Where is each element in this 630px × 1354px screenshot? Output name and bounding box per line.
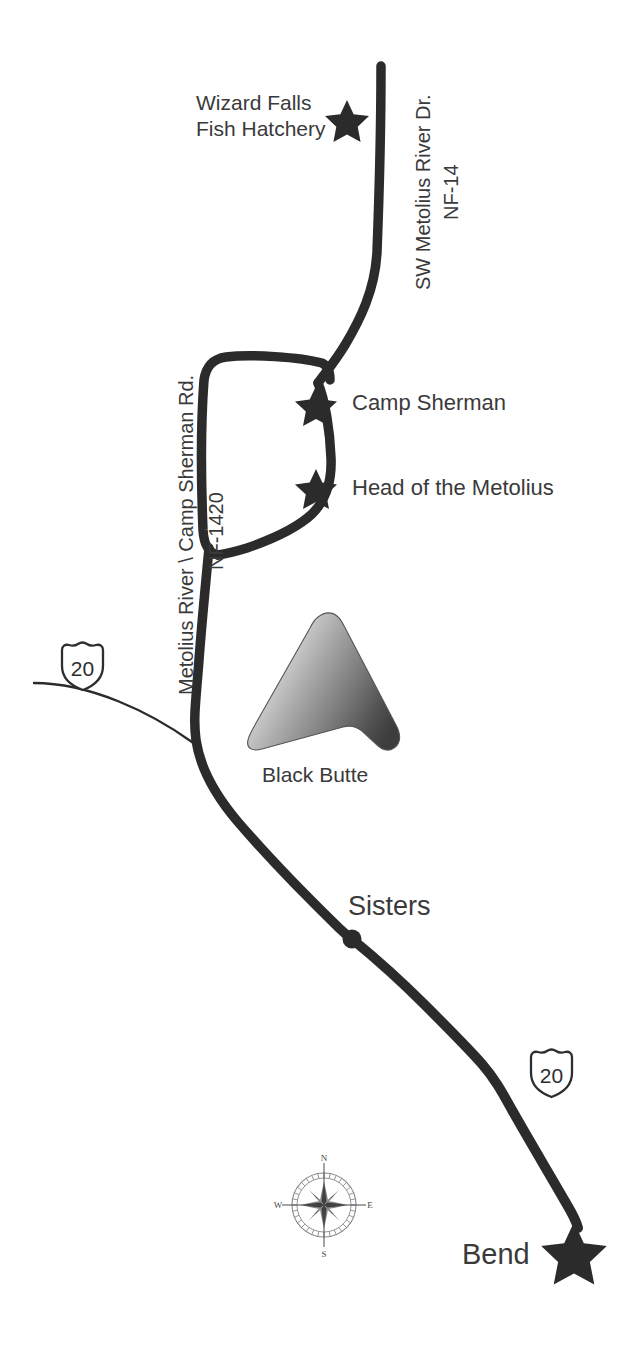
us20-shield-upper-number: 20 (71, 657, 94, 680)
label-sisters: Sisters (348, 890, 431, 923)
label-black-butte: Black Butte (262, 762, 368, 788)
label-wizard-falls-line2: Fish Hatchery (196, 116, 326, 142)
label-road-nf1420-name: Metolius River \ Camp Sherman Rd. (175, 375, 198, 695)
label-bend: Bend (462, 1237, 530, 1272)
us20-west-secondary-road (34, 683, 192, 742)
compass-label-west: W (274, 1200, 283, 1210)
marker-star-wizard-falls-fish-hatchery (325, 100, 369, 142)
label-wizard-falls-line1: Wizard Falls (196, 90, 326, 116)
label-camp-sherman: Camp Sherman (352, 390, 506, 417)
compass-label-east: E (367, 1200, 373, 1210)
map-canvas: 20 20 (0, 0, 630, 1354)
us20-shield-lower-number: 20 (540, 1064, 563, 1087)
marker-dot-sisters (343, 930, 362, 949)
compass-label-south: S (321, 1249, 326, 1259)
label-road-nf14-number: NF-14 (440, 164, 463, 220)
us20-shield-lower: 20 (531, 1050, 572, 1098)
black-butte-mountain (248, 613, 400, 750)
compass-label-north: N (321, 1153, 328, 1163)
us20-shield-upper: 20 (62, 643, 103, 691)
label-head-of-the-metolius: Head of the Metolius (352, 475, 554, 502)
label-wizard-falls-fish-hatchery: Wizard Falls Fish Hatchery (196, 90, 326, 141)
label-road-nf14-name: SW Metolius River Dr. (412, 94, 435, 290)
map-graphics-layer: 20 20 (0, 0, 630, 1354)
label-road-nf1420-number: NF-1420 (205, 492, 228, 570)
compass-rose: N S E W (274, 1153, 374, 1259)
marker-star-bend (541, 1222, 607, 1285)
